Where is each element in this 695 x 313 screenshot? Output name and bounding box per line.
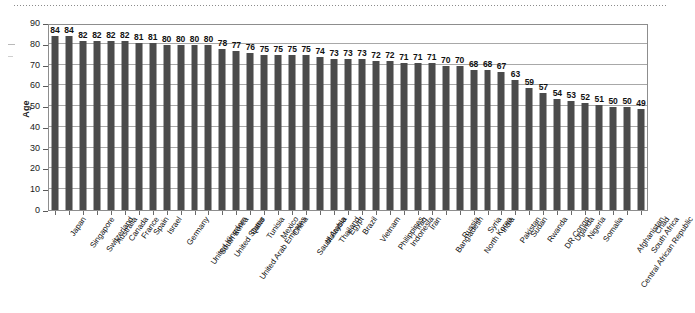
bar[interactable]	[386, 61, 393, 211]
bar[interactable]	[610, 107, 617, 211]
bar-value-label: 82	[120, 30, 129, 40]
bar[interactable]	[414, 63, 421, 211]
bar-slot[interactable]: 76	[243, 24, 257, 211]
bar[interactable]	[149, 43, 156, 211]
bar-slot[interactable]: 81	[132, 24, 146, 211]
bar[interactable]	[289, 55, 296, 211]
bar-slot[interactable]: 81	[146, 24, 160, 211]
bar[interactable]	[372, 61, 379, 211]
bar[interactable]	[554, 99, 561, 211]
bar-value-label: 73	[357, 48, 366, 58]
bar-slot[interactable]: 74	[313, 24, 327, 211]
bar-value-label: 70	[455, 55, 464, 65]
y-tick-label: 30	[30, 143, 40, 153]
bar-slot[interactable]: 53	[564, 24, 578, 211]
bar[interactable]	[317, 57, 324, 211]
bar-slot[interactable]: 54	[550, 24, 564, 211]
bar[interactable]	[456, 66, 463, 211]
bar[interactable]	[93, 41, 100, 211]
bar[interactable]	[400, 63, 407, 211]
bar-value-label: 68	[483, 59, 492, 69]
bar[interactable]	[177, 45, 184, 211]
bar[interactable]	[303, 55, 310, 211]
bar-slot[interactable]: 84	[62, 24, 76, 211]
bar[interactable]	[498, 72, 505, 211]
bar-slot[interactable]: 78	[215, 24, 229, 211]
bar-slot[interactable]: 68	[467, 24, 481, 211]
bar-slot[interactable]: 71	[397, 24, 411, 211]
bar-value-label: 50	[608, 96, 617, 106]
bar-slot[interactable]: 75	[257, 24, 271, 211]
bar-slot[interactable]: 80	[174, 24, 188, 211]
bar[interactable]	[107, 41, 114, 211]
bar-slot[interactable]: 80	[188, 24, 202, 211]
bar-slot[interactable]: 57	[536, 24, 550, 211]
bar[interactable]	[121, 41, 128, 211]
x-axis-label: Japan	[68, 215, 88, 238]
bar[interactable]	[568, 101, 575, 211]
bar-slot[interactable]: 77	[229, 24, 243, 211]
bar-slot[interactable]: 52	[578, 24, 592, 211]
bar-slot[interactable]: 72	[369, 24, 383, 211]
bar[interactable]	[624, 107, 631, 211]
bar[interactable]	[526, 88, 533, 211]
bar-slot[interactable]: 59	[522, 24, 536, 211]
bar-slot[interactable]: 51	[592, 24, 606, 211]
bar-slot[interactable]: 70	[453, 24, 467, 211]
bar-slot[interactable]: 75	[285, 24, 299, 211]
bar-slot[interactable]: 70	[439, 24, 453, 211]
bar-slot[interactable]: 82	[90, 24, 104, 211]
bar[interactable]	[275, 55, 282, 211]
bar-slot[interactable]: 73	[327, 24, 341, 211]
bar[interactable]	[261, 55, 268, 211]
bar[interactable]	[428, 63, 435, 211]
bar-value-label: 49	[636, 98, 645, 108]
bar-slot[interactable]: 73	[341, 24, 355, 211]
bar-slot[interactable]: 67	[495, 24, 509, 211]
bar[interactable]	[219, 49, 226, 211]
bar[interactable]	[205, 45, 212, 211]
bar-value-label: 80	[162, 34, 171, 44]
bar[interactable]	[51, 36, 58, 211]
bar[interactable]	[582, 103, 589, 211]
bar-value-label: 53	[567, 90, 576, 100]
bar-value-label: 82	[78, 30, 87, 40]
bar[interactable]	[331, 59, 338, 211]
bar[interactable]	[442, 66, 449, 211]
bar[interactable]	[512, 80, 519, 211]
bar-slot[interactable]: 50	[606, 24, 620, 211]
bar-value-label: 75	[260, 44, 269, 54]
bar[interactable]	[470, 70, 477, 211]
bar-slot[interactable]: 82	[104, 24, 118, 211]
bar-slot[interactable]: 82	[118, 24, 132, 211]
bar[interactable]	[484, 70, 491, 211]
bar-value-label: 52	[581, 92, 590, 102]
bar-slot[interactable]: 68	[481, 24, 495, 211]
bar[interactable]	[191, 45, 198, 211]
bar[interactable]	[358, 59, 365, 211]
bar[interactable]	[596, 105, 603, 211]
bar[interactable]	[163, 45, 170, 211]
bar[interactable]	[540, 93, 547, 211]
bar[interactable]	[233, 51, 240, 211]
bar-slot[interactable]: 63	[508, 24, 522, 211]
bar-slot[interactable]: 84	[48, 24, 62, 211]
bar[interactable]	[247, 53, 254, 211]
bar-slot[interactable]: 80	[160, 24, 174, 211]
bar-slot[interactable]: 50	[620, 24, 634, 211]
bar-slot[interactable]: 82	[76, 24, 90, 211]
bar[interactable]	[638, 109, 645, 211]
bar-slot[interactable]: 75	[271, 24, 285, 211]
bar-slot[interactable]: 72	[383, 24, 397, 211]
bar[interactable]	[79, 41, 86, 211]
bar[interactable]	[135, 43, 142, 211]
bar[interactable]	[345, 59, 352, 211]
bar-slot[interactable]: 71	[425, 24, 439, 211]
bar[interactable]	[65, 36, 72, 211]
bar-slot[interactable]: 49	[634, 24, 648, 211]
bar-slot[interactable]: 75	[299, 24, 313, 211]
bar-slot[interactable]: 71	[411, 24, 425, 211]
bar-slot[interactable]: 80	[201, 24, 215, 211]
bar-slot[interactable]: 73	[355, 24, 369, 211]
bar-value-label: 81	[134, 32, 143, 42]
